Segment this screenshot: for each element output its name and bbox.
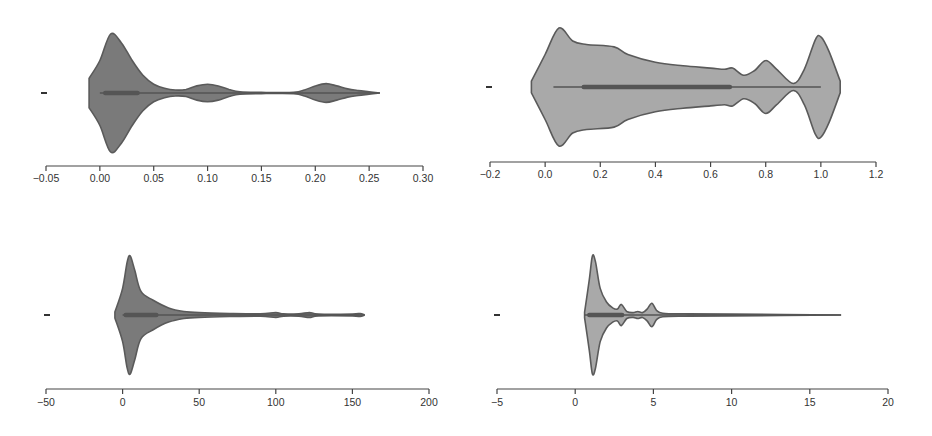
x-axis: −0.20.00.20.40.60.81.01.2: [480, 162, 884, 180]
x-tick-label: 0.6: [703, 168, 718, 180]
x-tick-label: −0.05: [33, 172, 60, 184]
violin-plot-figure: −0.050.000.050.100.150.200.250.30−0.20.0…: [0, 0, 932, 436]
x-tick-label: 0.4: [648, 168, 663, 180]
x-tick-label: 0.00: [90, 172, 111, 184]
x-tick-label: 100: [267, 396, 285, 408]
x-tick-label: −50: [37, 396, 55, 408]
x-tick-label: 10: [726, 396, 738, 408]
x-tick-label: 0.10: [197, 172, 218, 184]
x-tick-label: 15: [804, 396, 816, 408]
x-tick-label: −5: [491, 396, 503, 408]
x-tick-label: 0.05: [143, 172, 164, 184]
x-tick-label: 1.2: [869, 168, 884, 180]
x-axis: −50050100150200: [37, 389, 438, 408]
x-tick-label: 0.8: [758, 168, 773, 180]
x-tick-label: −0.2: [480, 168, 501, 180]
x-axis: −505101520: [491, 389, 894, 408]
x-axis: −0.050.000.050.100.150.200.250.30: [33, 166, 434, 184]
x-tick-label: 50: [193, 396, 205, 408]
x-tick-label: 0: [120, 396, 126, 408]
violin-panel-top-left: −0.050.000.050.100.150.200.250.30: [33, 33, 434, 184]
violin-panel-bottom-left: −50050100150200: [37, 256, 438, 408]
x-tick-label: 20: [882, 396, 894, 408]
x-tick-label: 0.2: [593, 168, 608, 180]
violin-panel-top-right: −0.20.00.20.40.60.81.01.2: [480, 28, 884, 180]
x-tick-label: 0.30: [413, 172, 434, 184]
x-tick-label: 0.20: [305, 172, 326, 184]
x-tick-label: 5: [650, 396, 656, 408]
x-tick-label: 1.0: [814, 168, 829, 180]
x-tick-label: 150: [344, 396, 362, 408]
x-tick-label: 0.25: [359, 172, 380, 184]
x-tick-label: 0.15: [251, 172, 272, 184]
violin-panel-bottom-right: −505101520: [491, 255, 894, 408]
x-tick-label: 0: [572, 396, 578, 408]
x-tick-label: 0.0: [538, 168, 553, 180]
x-tick-label: 200: [420, 396, 438, 408]
